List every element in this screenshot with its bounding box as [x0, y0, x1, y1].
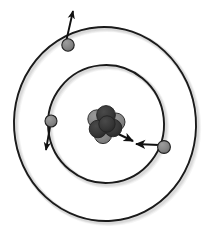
electron-inner-left [45, 115, 57, 127]
radius-arrow-inward-segment [136, 144, 159, 145]
atom-diagram-canvas: Bohr model of an atom Schematic atom: a … [0, 0, 210, 238]
bohr-atom-figure: Bohr model of an atom Schematic atom: a … [0, 0, 210, 238]
electron-inner-right [158, 141, 171, 154]
electron-outer-top-left [62, 39, 74, 51]
nucleon-proton-6 [99, 116, 115, 132]
